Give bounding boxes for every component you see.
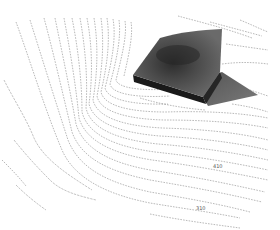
contour-label-310: 310: [196, 205, 206, 211]
contour-lines: [2, 16, 268, 228]
contour-label-410: 410: [213, 163, 223, 169]
terrain-block-3d: [133, 29, 258, 106]
contour-map: 410 310: [0, 0, 280, 230]
